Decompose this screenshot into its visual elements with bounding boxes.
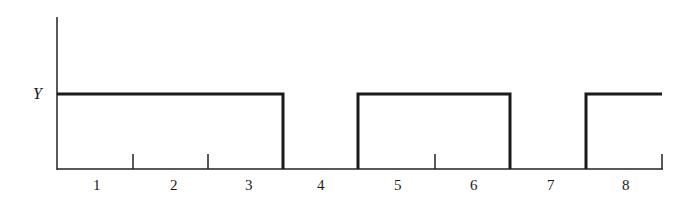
pulse-1 <box>57 94 283 169</box>
slot-label-5: 5 <box>394 177 402 193</box>
slot-label-8: 8 <box>622 177 630 193</box>
slot-label-2: 2 <box>170 177 178 193</box>
slot-label-1: 1 <box>93 177 101 193</box>
pulse-2 <box>358 94 510 169</box>
slot-label-6: 6 <box>470 177 478 193</box>
pulse-diagram: Y 1 2 3 4 5 6 7 8 <box>0 0 699 205</box>
slot-label-4: 4 <box>317 177 325 193</box>
y-level-label: Y <box>33 85 44 102</box>
slot-label-3: 3 <box>245 177 253 193</box>
slot-label-7: 7 <box>547 177 555 193</box>
pulse-3 <box>586 94 662 169</box>
